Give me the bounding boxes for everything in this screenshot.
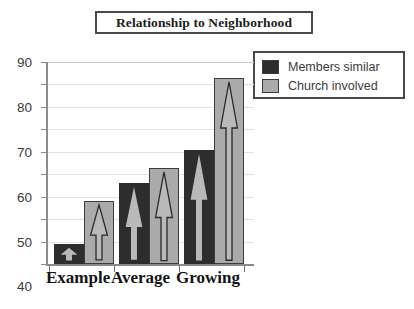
y-axis-tick-label: 50 bbox=[17, 234, 32, 249]
gridline bbox=[48, 62, 254, 63]
y-axis-tick-label: 70 bbox=[17, 144, 32, 159]
legend-label-members-similar: Members similar bbox=[288, 60, 380, 74]
legend-swatch-members-similar bbox=[262, 60, 279, 74]
x-axis-label-growing: Growing bbox=[176, 268, 240, 288]
arrow-up-icon bbox=[215, 79, 243, 263]
x-axis-labels: ExampleAverageGrowing bbox=[40, 268, 270, 292]
chart-title-box: Relationship to Neighborhood bbox=[95, 11, 313, 34]
y-axis-tick: 70 bbox=[41, 107, 46, 108]
y-axis-tick: 20 bbox=[41, 219, 46, 220]
y-axis-tick: 30 bbox=[41, 197, 46, 198]
x-axis-label-example: Example bbox=[46, 268, 110, 288]
y-axis-tick: 10 bbox=[41, 242, 46, 243]
bar-average-members-similar bbox=[119, 183, 149, 264]
y-axis-tick-label: 60 bbox=[17, 189, 32, 204]
chart-legend: Members similar Church involved bbox=[253, 51, 405, 99]
legend-item: Members similar bbox=[262, 57, 403, 76]
arrow-up-icon bbox=[85, 202, 113, 263]
bar-example-members-similar bbox=[54, 244, 84, 264]
bar-example-church-involved bbox=[84, 201, 114, 264]
arrow-up-icon bbox=[55, 245, 83, 263]
chart-container: Relationship to Neighborhood Members sim… bbox=[0, 0, 414, 309]
y-axis-tick: 50 bbox=[41, 152, 46, 153]
y-axis-tick: 60 bbox=[41, 129, 46, 130]
page-title: Relationship to Neighborhood bbox=[116, 15, 292, 31]
y-axis-tick: 0 bbox=[41, 264, 46, 265]
y-axis-tick-label: 40 bbox=[17, 279, 32, 294]
y-axis-line bbox=[46, 62, 48, 266]
arrow-up-icon bbox=[150, 169, 178, 264]
arrow-up-icon bbox=[185, 151, 213, 263]
y-axis-tick: 40 bbox=[41, 174, 46, 175]
bar-average-church-involved bbox=[149, 168, 179, 265]
legend-item: Church involved bbox=[262, 76, 403, 95]
bar-growing-members-similar bbox=[184, 150, 214, 264]
x-axis-line bbox=[46, 264, 254, 266]
y-axis-tick: 80 bbox=[41, 84, 46, 85]
x-axis-label-average: Average bbox=[111, 268, 170, 288]
arrow-up-icon bbox=[120, 184, 148, 263]
plot-area: 0102030405060708090 bbox=[46, 62, 254, 266]
y-axis-tick-label: 80 bbox=[17, 99, 32, 114]
legend-swatch-church-involved bbox=[262, 79, 279, 93]
y-axis-tick-label: 90 bbox=[17, 55, 32, 70]
legend-label-church-involved: Church involved bbox=[288, 79, 378, 93]
y-axis-tick: 90 bbox=[41, 62, 46, 63]
bar-growing-church-involved bbox=[214, 78, 244, 264]
